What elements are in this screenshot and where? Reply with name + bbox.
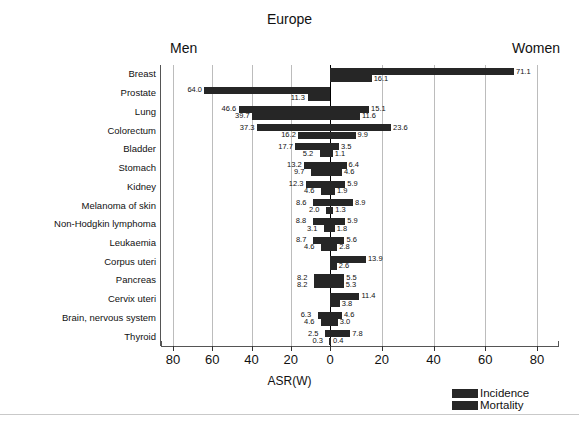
bar-inc-l-13	[318, 312, 330, 319]
x-tick-label-8: 80	[517, 352, 557, 367]
bar-inc-l-11	[314, 274, 330, 281]
bar-value-mor-l-11: 8.2	[297, 281, 307, 288]
category-label-10: Corpus uteri	[104, 256, 156, 267]
bar-value-mor-r-6: 1.9	[337, 187, 347, 194]
bar-value-mor-l-13: 4.6	[304, 318, 314, 325]
bar-value-inc-r-0: 71.1	[516, 68, 531, 75]
bar-mor-r-12	[330, 300, 340, 307]
bar-value-mor-r-3: 9.9	[358, 131, 368, 138]
legend-label-incidence: Incidence	[480, 387, 529, 399]
x-axis-spine	[161, 346, 559, 347]
bar-value-mor-l-6: 4.6	[304, 187, 314, 194]
bar-mor-r-7	[330, 207, 333, 214]
bar-mor-l-11	[314, 281, 330, 288]
bar-mor-r-5	[330, 169, 342, 176]
x-tick-3	[291, 346, 292, 351]
x-tick-label-2: 40	[232, 352, 272, 367]
category-label-13: Brain, nervous system	[62, 312, 156, 323]
category-label-2: Lung	[135, 106, 156, 117]
bar-value-inc-r-12: 11.4	[361, 292, 375, 299]
bar-mor-r-13	[330, 319, 338, 326]
category-label-8: Non-Hodgkin lymphoma	[54, 218, 156, 229]
x-tick-7	[485, 346, 486, 351]
category-label-6: Kidney	[127, 181, 156, 192]
x-tick-0	[173, 346, 174, 351]
bar-value-mor-l-4: 5.2	[303, 150, 313, 157]
bar-value-mor-l-14: 0.3	[312, 337, 322, 344]
bar-value-inc-r-7: 8.9	[355, 199, 365, 206]
bar-value-mor-r-11: 5.3	[346, 281, 356, 288]
x-tick-6	[434, 346, 435, 351]
bar-value-inc-l-6: 12.3	[289, 180, 304, 187]
x-tick-label-0: 80	[153, 352, 193, 367]
bar-value-mor-r-5: 4.6	[344, 168, 354, 175]
bar-mor-r-3	[330, 132, 356, 139]
bar-inc-l-1	[204, 87, 330, 94]
bar-value-mor-r-9: 2.8	[339, 243, 349, 250]
x-tick-4	[330, 346, 331, 351]
bar-mor-l-13	[321, 319, 330, 326]
legend-label-mortality: Mortality	[480, 399, 523, 411]
men-group-label: Men	[170, 40, 197, 56]
category-label-3: Colorectum	[107, 125, 156, 136]
bar-mor-r-6	[330, 188, 335, 195]
x-tick-label-7: 60	[465, 352, 505, 367]
category-label-12: Cervix uteri	[108, 293, 156, 304]
bar-mor-r-10	[330, 263, 337, 270]
bar-mor-r-14	[330, 338, 331, 345]
category-label-1: Prostate	[121, 87, 156, 98]
bar-value-inc-r-6: 5.9	[347, 180, 357, 187]
bar-value-inc-l-7: 8.6	[296, 199, 306, 206]
bar-value-mor-r-0: 16.1	[374, 75, 389, 82]
x-tick-label-5: 20	[362, 352, 402, 367]
bar-value-mor-l-9: 4.6	[304, 243, 314, 250]
bar-inc-l-5	[304, 162, 330, 169]
x-tick-label-6: 40	[414, 352, 454, 367]
bar-value-inc-r-10: 13.9	[368, 255, 383, 262]
bar-inc-l-9	[313, 237, 330, 244]
bar-value-mor-r-7: 1.3	[335, 206, 345, 213]
bar-value-mor-l-7: 2.0	[309, 206, 319, 213]
bar-value-mor-r-2: 11.6	[362, 112, 376, 119]
category-label-14: Thyroid	[124, 331, 156, 342]
bar-value-mor-l-2: 39.7	[235, 112, 250, 119]
bar-value-mor-l-5: 9.7	[294, 168, 304, 175]
bar-mor-r-11	[330, 281, 344, 288]
bar-value-mor-r-13: 3.0	[340, 318, 350, 325]
bar-mor-r-4	[330, 150, 333, 157]
x-tick-2	[252, 346, 253, 351]
cancer-asr-chart: Europe Men Women 80604020020406080 Breas…	[0, 0, 579, 433]
bar-value-inc-r-3: 23.6	[393, 124, 408, 131]
bar-value-mor-l-3: 16.2	[281, 131, 296, 138]
bar-mor-l-4	[320, 150, 330, 157]
bar-value-inc-l-2: 46.6	[222, 105, 237, 112]
bar-mor-l-1	[308, 94, 330, 101]
incidence-swatch	[452, 389, 478, 398]
bar-mor-l-2	[252, 113, 330, 120]
bar-value-mor-l-8: 3.1	[307, 225, 317, 232]
women-group-label: Women	[512, 40, 560, 56]
x-tick-label-1: 60	[192, 352, 232, 367]
x-tick-label-3: 20	[271, 352, 311, 367]
bar-value-inc-l-8: 8.8	[296, 217, 306, 224]
bar-value-inc-r-8: 5.9	[347, 217, 357, 224]
bar-inc-r-0	[330, 68, 514, 75]
bar-mor-l-6	[321, 188, 330, 195]
bar-mor-l-9	[321, 244, 330, 251]
x-tick-1	[212, 346, 213, 351]
chart-title: Europe	[0, 11, 579, 27]
bar-value-mor-r-14: 0.4	[333, 337, 343, 344]
gridline-60	[485, 65, 486, 346]
category-label-7: Melanoma of skin	[82, 200, 156, 211]
bar-value-inc-l-1: 64.0	[187, 86, 202, 93]
category-label-4: Bladder	[123, 143, 156, 154]
x-axis-title: ASR(W)	[0, 374, 579, 388]
bar-mor-l-5	[311, 169, 330, 176]
x-tick-label-4: 0	[310, 352, 350, 367]
bar-mor-r-2	[330, 113, 360, 120]
category-label-9: Leukaemia	[110, 237, 156, 248]
bar-value-mor-r-10: 2.6	[339, 262, 349, 269]
bar-value-mor-r-8: 1.8	[337, 225, 347, 232]
category-label-11: Pancreas	[116, 274, 156, 285]
bar-value-inc-r-14: 7.8	[352, 330, 362, 337]
